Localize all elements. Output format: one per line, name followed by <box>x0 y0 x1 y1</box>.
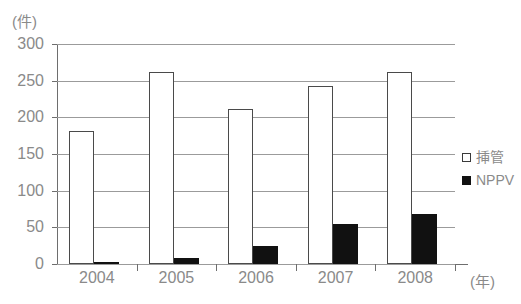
bar-intubation-2008 <box>387 72 412 264</box>
y-tick-label: 150 <box>0 146 44 162</box>
gridline <box>57 264 455 265</box>
bar-intubation-2004 <box>69 131 94 264</box>
bar-nppv-2007 <box>333 224 358 264</box>
legend-label: NPPV <box>476 173 514 187</box>
y-tick-label: 300 <box>0 36 44 52</box>
bar-chart: (件) (年) 300250200150100500 2004200520062… <box>0 0 521 304</box>
x-tick-label: 2005 <box>146 270 206 286</box>
y-tick-label: 50 <box>0 219 44 235</box>
plot-area <box>57 44 455 264</box>
bar-nppv-2004 <box>94 262 119 264</box>
bar-intubation-2007 <box>308 86 333 264</box>
legend-item-intubation: 挿管 <box>462 150 514 164</box>
open-square-icon <box>462 153 471 162</box>
x-tick-label: 2006 <box>226 270 286 286</box>
bar-nppv-2005 <box>174 258 199 264</box>
x-axis-separator <box>455 264 456 271</box>
y-axis-unit-label: (件) <box>12 10 37 31</box>
y-tick-label: 250 <box>0 73 44 89</box>
legend-label: 挿管 <box>476 150 504 164</box>
gridline <box>57 44 455 45</box>
bar-intubation-2006 <box>228 109 253 264</box>
x-tick-label: 2008 <box>385 270 445 286</box>
bar-nppv-2006 <box>253 246 278 264</box>
y-tick-label: 200 <box>0 109 44 125</box>
chart-legend: 挿管NPPV <box>462 150 514 187</box>
y-tick-label: 0 <box>0 256 44 272</box>
x-axis-separator <box>137 264 138 271</box>
x-tick-label: 2004 <box>67 270 127 286</box>
x-axis-unit-label: (年) <box>470 270 495 291</box>
bar-nppv-2008 <box>412 214 437 264</box>
bar-intubation-2005 <box>149 72 174 264</box>
filled-square-icon <box>462 176 471 185</box>
y-tick-label: 100 <box>0 183 44 199</box>
x-axis-separator <box>296 264 297 271</box>
x-axis-separator <box>375 264 376 271</box>
legend-item-nppv: NPPV <box>462 173 514 187</box>
x-tick-label: 2007 <box>306 270 366 286</box>
x-axis-separator <box>216 264 217 271</box>
